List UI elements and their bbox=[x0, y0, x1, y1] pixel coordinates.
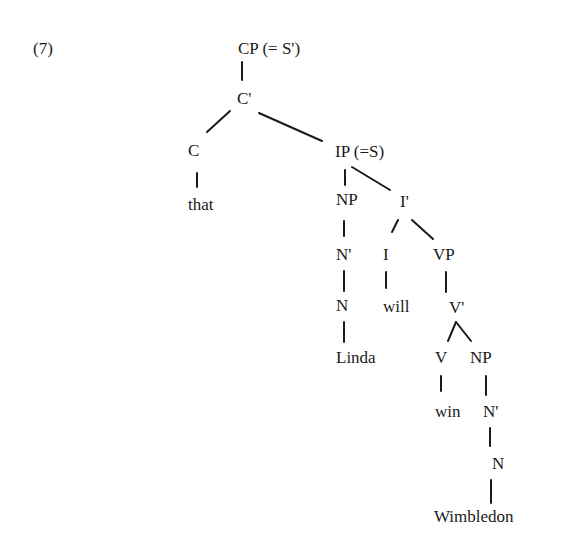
edge-cbar-ip bbox=[259, 113, 322, 141]
node-n-object: N bbox=[492, 455, 504, 473]
node-n-bar-subject: N' bbox=[336, 246, 351, 264]
node-i-bar: I' bbox=[400, 193, 409, 211]
tree-edges bbox=[0, 0, 576, 555]
node-c: C bbox=[188, 142, 199, 160]
edge-ibar-vp bbox=[412, 220, 433, 239]
edge-cbar-c bbox=[207, 111, 230, 132]
node-np-object: NP bbox=[470, 349, 492, 367]
leaf-that: that bbox=[188, 196, 214, 214]
edge-vbar-v bbox=[448, 322, 456, 341]
leaf-wimbledon: Wimbledon bbox=[434, 508, 514, 526]
leaf-linda: Linda bbox=[336, 349, 376, 367]
leaf-win: win bbox=[435, 403, 461, 421]
node-n-bar-object: N' bbox=[483, 403, 498, 421]
node-c-bar: C' bbox=[237, 90, 251, 108]
edge-vbar-np bbox=[456, 322, 471, 341]
node-vp: VP bbox=[433, 246, 455, 264]
node-v: V bbox=[435, 349, 447, 367]
edge-ip-ibar bbox=[352, 167, 390, 190]
node-np-subject: NP bbox=[336, 191, 358, 209]
example-number: (7) bbox=[33, 40, 53, 58]
node-n-subject: N bbox=[336, 297, 348, 315]
leaf-will: will bbox=[383, 298, 409, 316]
node-ip: IP (=S) bbox=[335, 143, 384, 161]
node-cp: CP (= S') bbox=[238, 40, 300, 58]
node-i: I bbox=[383, 246, 389, 264]
edge-ibar-i bbox=[392, 220, 398, 232]
node-v-bar: V' bbox=[449, 299, 464, 317]
